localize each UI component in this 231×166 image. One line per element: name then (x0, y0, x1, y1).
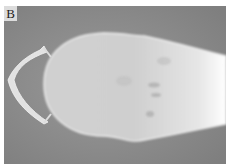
panel-label: B (4, 6, 17, 21)
radiograph-drawing (4, 6, 226, 164)
radiograph-image (4, 6, 226, 164)
